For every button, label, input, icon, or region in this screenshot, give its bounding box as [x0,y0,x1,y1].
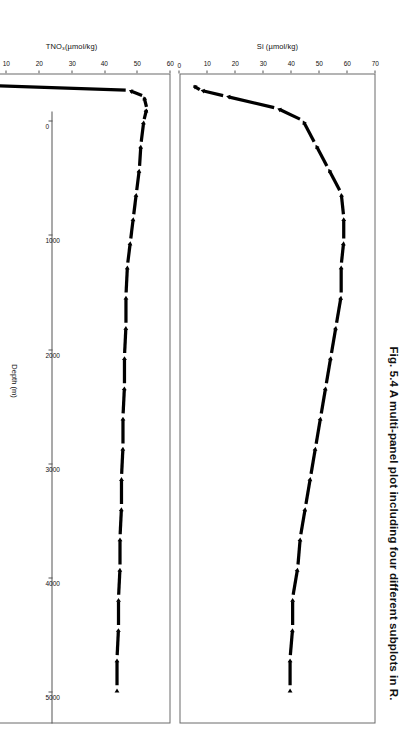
panel-tno3-segment [122,389,123,413]
x-axis-tick-mark [48,577,52,578]
panel-si-datapoint [200,88,204,93]
panel-si-segment [229,97,274,108]
panel-tno3-datapoint [123,295,128,299]
panel-si-yaxis: 010203040506070 [179,53,375,73]
panel-si-datapoint [322,386,327,390]
panel-tno3-datapoint [121,356,126,360]
panel-si-datapoint [327,356,332,360]
panel-si-datapoint [287,658,292,662]
panel-si-datapoint [289,628,294,632]
x-axis-tick: 3000 [48,463,52,464]
panel-si-datapoint [307,477,312,481]
x-axis-tick-label: 0 [45,123,49,130]
panel-si-ytick-mark [290,70,291,74]
panel-si-segment [203,90,222,95]
x-axis-tick: 4000 [48,577,52,578]
panel-tno3-datapoint [115,597,120,601]
panel-tno3-datapoint [121,386,126,390]
panel-tno3-datapoint [133,193,138,197]
panel-si-ylabel-wrap: Si (µmol/kg) [179,38,375,53]
panel-tno3-segment [136,171,138,189]
panel-tno3-datapoint [127,241,132,245]
panel-si-ytick-label: 30 [259,61,266,68]
panel-tno3-segment [130,220,132,238]
panel-si-ytick-mark [375,70,376,74]
panel-si-datapoint [339,193,344,197]
panel-stack: Si (µmol/kg) 010203040506070 TNO₃(µmol/k… [52,38,375,723]
figure-caption: Fig. 5.4 A multi-panel plot including fo… [387,346,399,725]
panel-tno3-datapoint [140,120,145,124]
panel-si-ytick-label: 0 [177,62,181,69]
panel-tno3-datapoint [114,658,119,662]
panel-si-ytick-label: 10 [203,61,210,68]
panel-si-segment [305,480,309,504]
panel-si-ytick-mark [234,70,235,74]
panel-si-datapoint [226,94,230,99]
panel-si-ytick-mark [346,70,347,74]
panel-si-datapoint [338,295,343,299]
panel-si-datapoint [340,241,345,245]
panel-tno3-ytick-label: 50 [133,61,140,68]
panel-si-ytick-label: 20 [231,61,238,68]
panel-tno3-datapoint [130,217,135,221]
panel-tno3-datapoint [116,567,121,571]
panel-tno3-segment [133,195,135,213]
x-axis-tick: 5000 [48,691,52,692]
panel-tno3-ytick-label: 40 [101,61,108,68]
panel-si-segment [280,109,300,118]
x-axis-tick-mark [48,349,52,350]
panel-si-ytick-mark [206,70,207,74]
panel-tno3-segment [140,123,142,141]
x-axis-tick: 2000 [48,349,52,350]
panel-si-segment [300,510,304,534]
panel-si-datapoint [287,688,292,692]
panel-tno3-ytick-mark [169,70,170,74]
panel-si-segment [341,244,343,262]
panel-si-ytick-label: 60 [343,61,350,68]
x-axis-line [51,111,52,723]
x-axis-tick-label: 3000 [45,466,59,473]
panel-si-segment [331,329,335,353]
panel-si: Si (µmol/kg) 010203040506070 [179,38,375,723]
panel-tno3-ytick-label: 30 [68,61,75,68]
x-axis-tick-label: 2000 [45,352,59,359]
panel-si-segment [336,298,340,322]
panel-si-datapoint [294,567,299,571]
x-axis: 010002000300040005000 Depth (m) [0,38,52,723]
x-axis-tick-mark [48,120,52,121]
panel-tno3-datapoint [117,537,122,541]
panel-tno3-segment [139,147,140,165]
panel-si-segment [298,540,300,564]
panel-si-datapoint [302,507,307,511]
x-axis-tick: 0 [48,120,52,121]
panel-si-segment [317,147,327,165]
panel-tno3-ytick-mark [71,70,72,74]
panel-si-datapoint [338,265,343,269]
panel-si-ylabel: Si (µmol/kg) [256,41,297,50]
panel-tno3-datapoint [119,446,124,450]
panel-si-datapoint [333,325,338,329]
x-axis-tick-mark [48,691,52,692]
panel-si-ytick-label: 50 [315,61,322,68]
panel-tno3-datapoint [118,507,123,511]
panel-si-segment [321,389,325,413]
panel-si-datapoint [341,217,346,221]
panel-tno3-segment [116,631,117,655]
panel-tno3-ytick-mark [136,70,137,74]
panel-tno3-segment [119,510,120,534]
x-axis-tick-mark [48,234,52,235]
panel-si-segment [290,631,292,655]
x-axis-label: Depth (m) [9,38,18,723]
panel-si-ytick-mark [262,70,263,74]
panel-si-ytick-mark [178,70,179,74]
panel-si-datapoint [317,416,322,420]
panel-tno3-datapoint [137,144,142,148]
panel-si-segment [341,195,343,213]
panel-si-svg [180,74,374,722]
panel-tno3-datapoint [124,265,129,269]
panel-tno3-segment [121,450,122,474]
panel-tno3-datapoint [114,688,119,692]
x-axis-tick-label: 5000 [45,694,59,701]
